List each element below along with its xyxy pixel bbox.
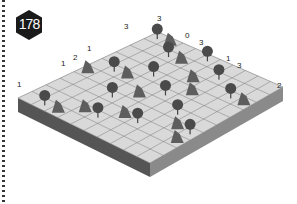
clue-number: 3 [199, 39, 203, 47]
tree-icon [132, 108, 143, 119]
tree-icon [109, 56, 120, 67]
clue-number: 2 [277, 82, 281, 90]
tree-icon [163, 42, 174, 53]
clue-number: 3 [237, 62, 241, 70]
clue-number: 2 [73, 54, 77, 62]
tree-icon [225, 83, 236, 94]
tree-icon [148, 61, 159, 72]
clue-number: 3 [124, 23, 128, 31]
tree-icon [185, 119, 196, 130]
tree-icon [213, 64, 224, 75]
tree-icon [92, 102, 103, 113]
tree-icon [39, 90, 50, 101]
clue-number: 1 [17, 81, 21, 89]
clue-number: 3 [157, 15, 161, 23]
puzzle-board [0, 0, 297, 204]
tree-icon [107, 82, 118, 93]
tree-icon [160, 80, 171, 91]
tree-icon [152, 24, 163, 35]
clue-number: 0 [185, 32, 189, 40]
tree-icon [202, 46, 213, 57]
tree-icon [172, 99, 183, 110]
clue-number: 1 [87, 45, 91, 53]
clue-number: 1 [226, 55, 230, 63]
clue-number: 1 [61, 60, 65, 68]
